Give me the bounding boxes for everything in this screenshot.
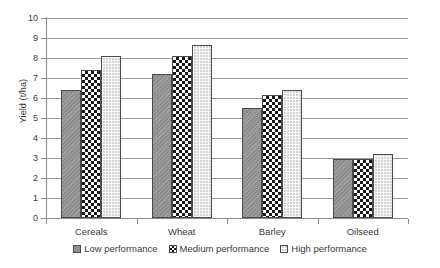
bar-chart: Yield (t/ha) 109876543210 Low performanc… — [0, 0, 440, 268]
y-tick-mark — [41, 178, 46, 179]
y-tick-label: 2 — [4, 174, 38, 183]
y-tick-mark — [41, 198, 46, 199]
x-tick-mark — [227, 219, 228, 224]
chart-legend: Low performanceMedium performanceHigh pe… — [0, 243, 440, 254]
bar — [353, 159, 373, 218]
y-axis-tick-labels: 109876543210 — [0, 0, 38, 268]
bar — [152, 74, 172, 218]
bar — [172, 56, 192, 218]
x-tick-mark — [318, 219, 319, 224]
legend-swatch-icon — [280, 245, 288, 253]
y-tick-mark — [41, 58, 46, 59]
y-tick-label: 5 — [4, 114, 38, 123]
bar — [262, 95, 282, 218]
x-axis-category-label: Barley — [259, 226, 286, 237]
y-tick-label: 1 — [4, 194, 38, 203]
x-axis-category-label: Wheat — [168, 226, 195, 237]
gridline — [46, 18, 408, 19]
x-tick-mark — [137, 219, 138, 224]
legend-label: Low performance — [84, 243, 157, 254]
legend-item[interactable]: High performance — [280, 243, 367, 254]
y-tick-label: 6 — [4, 94, 38, 103]
x-axis-category-label: Cereals — [75, 226, 108, 237]
bar — [333, 159, 353, 218]
y-tick-mark — [41, 118, 46, 119]
y-tick-mark — [41, 38, 46, 39]
bar — [61, 90, 81, 218]
x-tick-mark — [46, 219, 47, 224]
y-tick-label: 8 — [4, 54, 38, 63]
y-tick-mark — [41, 158, 46, 159]
y-tick-mark — [41, 78, 46, 79]
x-tick-mark — [408, 219, 409, 224]
plot-area — [46, 18, 408, 218]
y-tick-mark — [41, 98, 46, 99]
bar — [81, 70, 101, 218]
bar — [373, 154, 393, 218]
legend-item[interactable]: Low performance — [73, 243, 157, 254]
x-axis-category-label: Oilseed — [347, 226, 379, 237]
y-tick-mark — [41, 18, 46, 19]
legend-label: High performance — [291, 243, 367, 254]
bar — [242, 108, 262, 218]
legend-swatch-icon — [169, 245, 177, 253]
bar — [282, 90, 302, 218]
legend-label: Medium performance — [180, 243, 270, 254]
gridline — [46, 38, 408, 39]
y-axis-line — [46, 17, 47, 219]
y-tick-mark — [41, 138, 46, 139]
bar — [101, 56, 121, 218]
y-tick-label: 10 — [4, 14, 38, 23]
bar — [192, 45, 212, 218]
y-tick-label: 3 — [4, 154, 38, 163]
y-tick-label: 7 — [4, 74, 38, 83]
y-tick-label: 9 — [4, 34, 38, 43]
legend-swatch-icon — [73, 245, 81, 253]
legend-item[interactable]: Medium performance — [169, 243, 270, 254]
y-tick-label: 0 — [4, 214, 38, 223]
y-tick-label: 4 — [4, 134, 38, 143]
